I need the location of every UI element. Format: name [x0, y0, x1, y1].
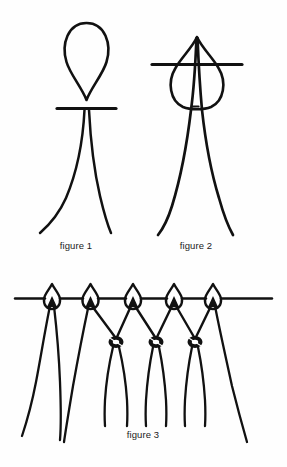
connecting-knot	[149, 336, 164, 348]
connecting-knot	[109, 336, 124, 348]
plate-background	[0, 0, 287, 467]
figure-plate	[0, 0, 287, 467]
connecting-knot	[188, 336, 203, 348]
caption-figure-2: figure 2	[160, 240, 232, 251]
caption-figure-1: figure 1	[40, 240, 112, 251]
caption-figure-3: figure 3	[107, 429, 179, 440]
